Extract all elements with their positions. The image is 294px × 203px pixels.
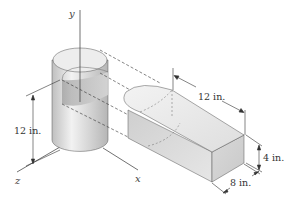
d-shaped-prism — [124, 85, 244, 182]
x-axis-label: x — [135, 173, 141, 184]
y-axis-label: y — [68, 8, 75, 19]
prism-height-label: 4 in. — [263, 152, 284, 163]
z-axis — [17, 147, 60, 172]
x-axis — [103, 148, 138, 170]
z-axis-label: z — [14, 175, 21, 186]
diagram: z x y 12 in. — [0, 0, 294, 203]
cylinder-height-label: 12 in. — [14, 125, 41, 136]
prism-length-label: 12 in. — [198, 91, 225, 102]
prism-width-label: 8 in. — [230, 177, 251, 188]
